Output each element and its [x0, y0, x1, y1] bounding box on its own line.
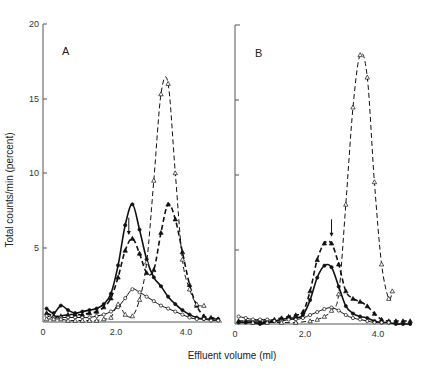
- panel-b-point-filled-triangle: [351, 296, 355, 300]
- panel-b-line-open-triangle-dashed: [253, 53, 392, 322]
- panel-a-point-filled-circle: [66, 308, 69, 311]
- panel-a-point-filled-circle: [174, 303, 177, 306]
- panel-a-point-open-circle: [217, 319, 220, 322]
- panel-a-point-open-circle: [138, 291, 141, 294]
- panel-a-point-open-circle: [188, 316, 191, 319]
- panel-b-point-filled-circle: [316, 276, 319, 279]
- panel-b-point-open-triangle: [372, 180, 376, 184]
- panel-b-point-open-circle: [308, 313, 311, 316]
- panel-b-point-open-circle: [316, 310, 319, 313]
- panel-a-point-open-circle: [174, 310, 177, 313]
- panel-b-point-open-circle: [366, 319, 369, 322]
- panel-a-point-open-triangle: [116, 302, 120, 306]
- panel-b-xtick-label: 4.0: [372, 329, 385, 339]
- panel-b: 0 2.0 4.0 B: [232, 25, 412, 339]
- y-axis-title: Total counts/min (percent): [4, 132, 15, 247]
- panel-b-point-open-circle: [244, 316, 247, 319]
- panel-b-point-open-circle: [258, 318, 261, 321]
- panel-a-point-open-circle: [109, 310, 112, 313]
- panel-a-point-open-circle: [202, 317, 205, 320]
- panel-a-point-open-circle: [159, 304, 162, 307]
- chromatography-chart: 5 10 15 20 0 2.0 4.0 A 0 2.0 4.0 B Total…: [0, 0, 434, 373]
- panel-b-xtick-label: 0: [232, 329, 237, 339]
- panel-b-point-open-circle: [237, 315, 240, 318]
- panel-a-ytick-label: 15: [29, 94, 39, 104]
- panel-b-point-filled-triangle: [336, 262, 340, 266]
- panel-a-point-open-triangle: [130, 314, 134, 318]
- panel-a-point-open-circle: [124, 297, 127, 300]
- panel-b-point-filled-circle: [344, 304, 347, 307]
- panel-a-arrow-head: [127, 231, 131, 235]
- panel-a-point-open-circle: [152, 300, 155, 303]
- panel-b-label: B: [255, 47, 262, 59]
- panel-b-point-filled-circle: [330, 266, 333, 269]
- panel-a-line-filled-triangle-dashed: [47, 204, 219, 319]
- panel-b-point-open-triangle: [344, 202, 348, 206]
- panel-b-point-filled-circle: [351, 312, 354, 315]
- panel-a-point-filled-circle: [131, 203, 134, 206]
- panel-a-point-filled-triangle: [159, 230, 163, 234]
- panel-a-point-open-circle: [102, 313, 105, 316]
- panel-a-ytick-label: 10: [29, 168, 39, 178]
- panel-b-point-open-circle: [301, 316, 304, 319]
- panel-a-point-open-circle: [195, 317, 198, 320]
- panel-a-point-filled-triangle: [152, 268, 156, 272]
- panel-b-point-filled-triangle: [365, 304, 369, 308]
- panel-a-point-filled-triangle: [130, 236, 134, 240]
- panel-a-series: [44, 77, 220, 322]
- panel-b-point-filled-circle: [323, 264, 326, 267]
- panel-b-point-open-triangle: [365, 75, 369, 79]
- panel-a-xtick-label: 0: [40, 327, 45, 337]
- panel-a-point-filled-circle: [181, 308, 184, 311]
- x-axis-title: Effluent volume (ml): [188, 350, 277, 361]
- panel-a-point-filled-circle: [138, 228, 141, 231]
- panel-a-point-open-circle: [181, 313, 184, 316]
- panel-a-point-filled-circle: [59, 304, 62, 307]
- panel-b-point-open-circle: [287, 318, 290, 321]
- panel-b-point-open-triangle: [390, 289, 394, 293]
- panel-a-xtick-label: 2.0: [110, 327, 123, 337]
- panel-a-point-filled-circle: [124, 224, 127, 227]
- panel-a-line-filled-circle-solid: [47, 204, 219, 319]
- panel-b-point-filled-circle: [308, 298, 311, 301]
- panel-b-point-filled-triangle: [315, 258, 319, 262]
- panel-a-point-filled-circle: [45, 307, 48, 310]
- panel-b-point-filled-circle: [394, 322, 397, 325]
- panel-a-point-open-triangle: [159, 92, 163, 96]
- panel-a-point-filled-triangle: [180, 250, 184, 254]
- panel-a-point-open-triangle: [173, 171, 177, 175]
- panel-b-point-open-circle: [337, 309, 340, 312]
- panel-b-point-filled-triangle: [308, 289, 312, 293]
- panel-b-point-filled-triangle: [358, 299, 362, 303]
- panel-a-point-filled-circle: [152, 276, 155, 279]
- panel-a-point-open-triangle: [152, 178, 156, 182]
- panel-b-point-open-circle: [380, 321, 383, 324]
- panel-b-point-filled-circle: [237, 321, 240, 324]
- panel-b-point-open-circle: [351, 316, 354, 319]
- panel-b-point-filled-circle: [409, 322, 412, 325]
- panel-a-point-filled-triangle: [123, 248, 127, 252]
- panel-b-point-filled-triangle: [344, 289, 348, 293]
- panel-a-point-open-circle: [95, 314, 98, 317]
- panel-a-point-filled-triangle: [173, 217, 177, 221]
- panel-a-xtick-label: 4.0: [180, 327, 193, 337]
- panel-a: 5 10 15 20 0 2.0 4.0 A: [29, 19, 222, 337]
- panel-b-point-open-circle: [344, 313, 347, 316]
- panel-b-point-open-triangle: [379, 262, 383, 266]
- panel-a-point-open-triangle: [202, 303, 206, 307]
- panel-a-point-open-triangle: [166, 81, 170, 85]
- panel-b-arrow-head: [330, 233, 334, 237]
- panel-b-point-open-triangle: [322, 314, 326, 318]
- panel-b-point-open-circle: [387, 321, 390, 324]
- panel-a-point-open-triangle: [137, 297, 141, 301]
- panel-a-point-filled-triangle: [137, 251, 141, 255]
- panel-b-point-open-triangle: [358, 53, 362, 57]
- panel-b-point-open-circle: [373, 321, 376, 324]
- panel-a-point-open-circle: [209, 319, 212, 322]
- panel-a-label: A: [62, 45, 70, 57]
- panel-b-series: [236, 53, 412, 326]
- panel-b-point-open-circle: [323, 307, 326, 310]
- panel-a-ytick-label: 20: [29, 19, 39, 29]
- panel-b-xtick-label: 2.0: [299, 329, 312, 339]
- panel-b-point-open-circle: [359, 318, 362, 321]
